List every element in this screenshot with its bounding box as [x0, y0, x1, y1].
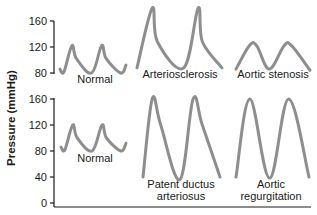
top-waveform-normal	[60, 45, 126, 73]
top-tick-label-80: 80	[35, 67, 47, 79]
pressure-waveform-diagram: Pressure (mmHg) 16012080 16012080400 Nor…	[0, 0, 317, 215]
bottom-tick-label-160: 160	[29, 93, 47, 105]
top-label-aortic-stenosis: Aortic stenosis	[237, 68, 309, 80]
bottom-label-normal: Normal	[77, 152, 112, 164]
top-tick-label-160: 160	[29, 15, 47, 27]
bottom-label-patent-ductus-arteriosus: Patent ductus	[147, 178, 215, 190]
bottom-label-patent-ductus-arteriosus: arteriosus	[157, 190, 206, 202]
bottom-label-aortic-regurgitation: regurgitation	[240, 190, 301, 202]
bottom-tick-label-40: 40	[35, 171, 47, 183]
top-y-axis: 16012080	[29, 15, 54, 79]
bottom-waveform-aortic-regurgitation	[236, 99, 309, 178]
bottom-tick-label-0: 0	[41, 197, 47, 209]
bottom-waveform-normal	[61, 125, 126, 152]
top-waveform-arteriosclerosis	[137, 7, 222, 68]
bottom-tick-label-80: 80	[35, 145, 47, 157]
top-tick-label-120: 120	[29, 41, 47, 53]
bottom-tick-label-120: 120	[29, 119, 47, 131]
y-axis-title: Pressure (mmHg)	[5, 70, 17, 166]
top-waveform-aortic-stenosis	[236, 42, 310, 70]
bottom-label-aortic-regurgitation: Aortic	[257, 178, 286, 190]
top-label-arteriosclerosis: Arteriosclerosis	[142, 68, 218, 80]
bottom-waveform-patent-ductus-arteriosus	[143, 97, 220, 180]
top-label-normal: Normal	[77, 73, 112, 85]
